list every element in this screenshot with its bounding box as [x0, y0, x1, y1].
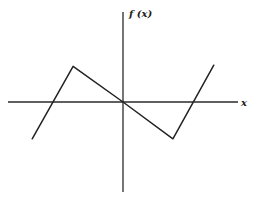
y-axis-label: f (x) [128, 8, 152, 19]
x-axis-label: x [240, 97, 248, 108]
function-plot: x f (x) [0, 0, 256, 200]
